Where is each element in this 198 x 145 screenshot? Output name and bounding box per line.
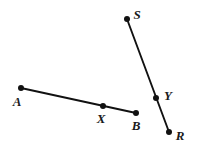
point-dot-y [153,95,159,101]
point-label-r: R [176,129,185,142]
point-dot-b [133,110,139,116]
geometry-figure: AXBSYR [0,0,198,145]
point-dot-r [166,129,172,135]
point-dot-a [18,85,24,91]
point-label-y: Y [164,89,172,102]
point-label-b: B [132,119,141,132]
segment-AB [21,88,136,113]
segments-group [21,19,169,132]
segment-SR [127,19,169,132]
point-label-x: X [97,112,106,125]
point-label-a: A [13,95,22,108]
point-dot-x [100,103,106,109]
point-dot-s [124,16,130,22]
point-label-s: S [133,8,140,21]
